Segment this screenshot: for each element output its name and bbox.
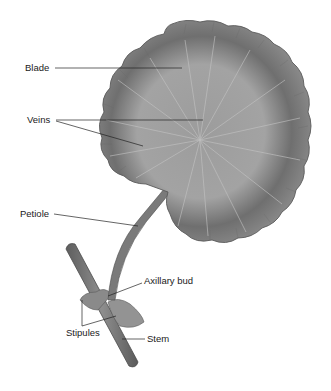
label-stem: Stem [147,334,169,344]
leaf-blade-shape [99,20,311,242]
label-petiole: Petiole [20,209,49,219]
petiole-leader-line [54,214,138,226]
label-blade: Blade [25,63,49,73]
label-axillary-bud: Axillary bud [144,276,193,286]
label-veins: Veins [27,115,50,125]
label-stipules: Stipules [66,328,100,338]
